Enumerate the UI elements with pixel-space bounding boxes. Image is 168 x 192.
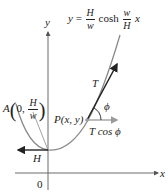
eq-frac1-num: H bbox=[86, 8, 95, 20]
eq-var: x bbox=[135, 12, 140, 24]
curve-equation: y = H w cosh w H x bbox=[68, 8, 140, 31]
x-axis-label: x bbox=[160, 168, 165, 179]
point-p-label: P(x, y) bbox=[54, 114, 83, 125]
eq-fraction-h-over-w: H w bbox=[86, 8, 95, 31]
point-a-name: A bbox=[3, 102, 10, 114]
t-arrow bbox=[87, 64, 117, 120]
eq-func: cosh bbox=[99, 12, 119, 24]
eq-fraction-w-over-h: w H bbox=[123, 8, 132, 31]
point-a-x: 0, bbox=[16, 102, 24, 114]
eq-lhs: y bbox=[68, 12, 73, 24]
right-paren: ) bbox=[39, 99, 46, 121]
y-axis-label: y bbox=[45, 17, 50, 28]
eq-sign: = bbox=[76, 12, 82, 24]
point-p-marker bbox=[85, 118, 89, 122]
phi-angle-arc bbox=[94, 108, 101, 120]
phi-label: ϕ bbox=[104, 101, 110, 112]
origin-label: 0 bbox=[37, 179, 43, 190]
point-a-y-den: w bbox=[30, 110, 37, 121]
eq-frac1-den: w bbox=[87, 20, 94, 31]
t-cos-phi-label: T cos ϕ bbox=[89, 126, 121, 137]
eq-frac2-den: H bbox=[123, 20, 130, 31]
eq-frac2-num: w bbox=[123, 8, 132, 20]
tension-label: T bbox=[92, 78, 98, 89]
h-label: H bbox=[33, 153, 41, 164]
point-a-label: A(0, H w ) bbox=[3, 98, 45, 121]
point-a-y-fraction: H w bbox=[28, 98, 37, 121]
point-a-y-num: H bbox=[28, 98, 37, 110]
